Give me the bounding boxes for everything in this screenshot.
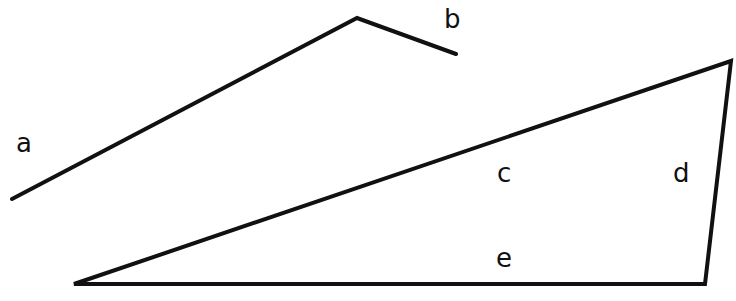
diagram-svg — [0, 0, 736, 301]
label-b: b — [444, 6, 461, 32]
label-c: c — [497, 160, 511, 186]
label-e: e — [496, 245, 512, 271]
label-d: d — [673, 160, 690, 186]
triangle-cde — [74, 61, 731, 284]
diagram-canvas: a b c d e — [0, 0, 736, 301]
polyline-ab — [12, 18, 456, 199]
label-a: a — [16, 130, 32, 156]
